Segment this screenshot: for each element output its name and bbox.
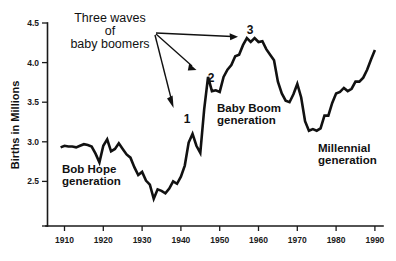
bob-hope-line-1: Bob Hope xyxy=(62,163,116,175)
x-tick-label-1930: 1930 xyxy=(133,235,152,245)
wave-marker-2-label: 2 xyxy=(208,71,215,85)
y-axis-title: Births in Millions xyxy=(9,81,21,170)
baby-boom-generation-label: Baby Boom generation xyxy=(217,102,281,126)
x-tick-label-1950: 1950 xyxy=(210,235,229,245)
three-waves-line-1: Three waves xyxy=(74,11,146,25)
x-tick-label-1960: 1960 xyxy=(249,235,268,245)
three-waves-line-3: baby boomers xyxy=(70,37,149,51)
x-axis-tick-labels: 1910 1920 1930 1940 1950 1960 1970 1980 … xyxy=(55,235,385,245)
x-tick-label-1990: 1990 xyxy=(365,235,384,245)
millennial-generation-label: Millennial generation xyxy=(318,142,377,166)
births-line-chart: 4.5 4.0 3.5 3.0 2.5 Births in Millions 1… xyxy=(0,0,396,261)
x-tick-label-1910: 1910 xyxy=(55,235,74,245)
chart-svg: 4.5 4.0 3.5 3.0 2.5 Births in Millions 1… xyxy=(0,0,396,261)
millennial-line-1: Millennial xyxy=(318,142,370,154)
x-tick-label-1980: 1980 xyxy=(327,235,346,245)
x-tick-label-1970: 1970 xyxy=(288,235,307,245)
bob-hope-generation-label: Bob Hope generation xyxy=(62,163,121,187)
baby-boom-line-1: Baby Boom xyxy=(217,102,281,114)
millennial-line-2: generation xyxy=(318,154,377,166)
y-tick-label-2-5: 2.5 xyxy=(27,176,39,186)
wave-marker-1-label: 1 xyxy=(184,112,191,126)
chart-background xyxy=(0,0,396,261)
y-tick-label-4-0: 4.0 xyxy=(27,58,39,68)
y-tick-label-3-5: 3.5 xyxy=(27,97,39,107)
wave-marker-3-label: 3 xyxy=(247,23,254,37)
y-tick-label-4-5: 4.5 xyxy=(27,18,39,28)
baby-boom-line-2: generation xyxy=(217,114,276,126)
bob-hope-line-2: generation xyxy=(62,175,121,187)
three-waves-line-2: of xyxy=(105,24,116,38)
x-tick-label-1920: 1920 xyxy=(94,235,113,245)
y-tick-label-3-0: 3.0 xyxy=(27,137,39,147)
x-tick-label-1940: 1940 xyxy=(171,235,190,245)
